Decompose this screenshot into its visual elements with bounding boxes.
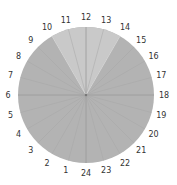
sector-label: 17 — [156, 71, 166, 80]
sector-label: 21 — [136, 146, 146, 155]
sector-label: 7 — [8, 71, 13, 80]
center-dot — [85, 94, 87, 96]
sector-label: 22 — [120, 159, 130, 168]
sector-label: 6 — [5, 91, 10, 100]
sector-label: 20 — [148, 130, 158, 139]
sector-label: 8 — [16, 52, 21, 61]
sector-label: 24 — [81, 169, 91, 178]
sector-label: 1 — [63, 166, 68, 175]
sector-label: 18 — [159, 91, 169, 100]
sector-label: 11 — [61, 16, 71, 25]
sector-label: 12 — [81, 13, 91, 22]
sector-label: 14 — [120, 23, 130, 32]
sector-label: 19 — [156, 111, 166, 120]
sector-label: 4 — [16, 130, 21, 139]
sector-label: 23 — [101, 166, 111, 175]
sector-label: 16 — [148, 52, 158, 61]
sector-label: 5 — [8, 111, 13, 120]
sector-label: 2 — [44, 159, 49, 168]
sector-label: 3 — [28, 146, 33, 155]
sector-label: 10 — [42, 23, 52, 32]
sector-label: 13 — [101, 16, 111, 25]
sector-wheel: 123456789101112131415161718192021222324 — [0, 0, 177, 185]
sector-label: 15 — [136, 36, 146, 45]
sector-label: 9 — [28, 36, 33, 45]
